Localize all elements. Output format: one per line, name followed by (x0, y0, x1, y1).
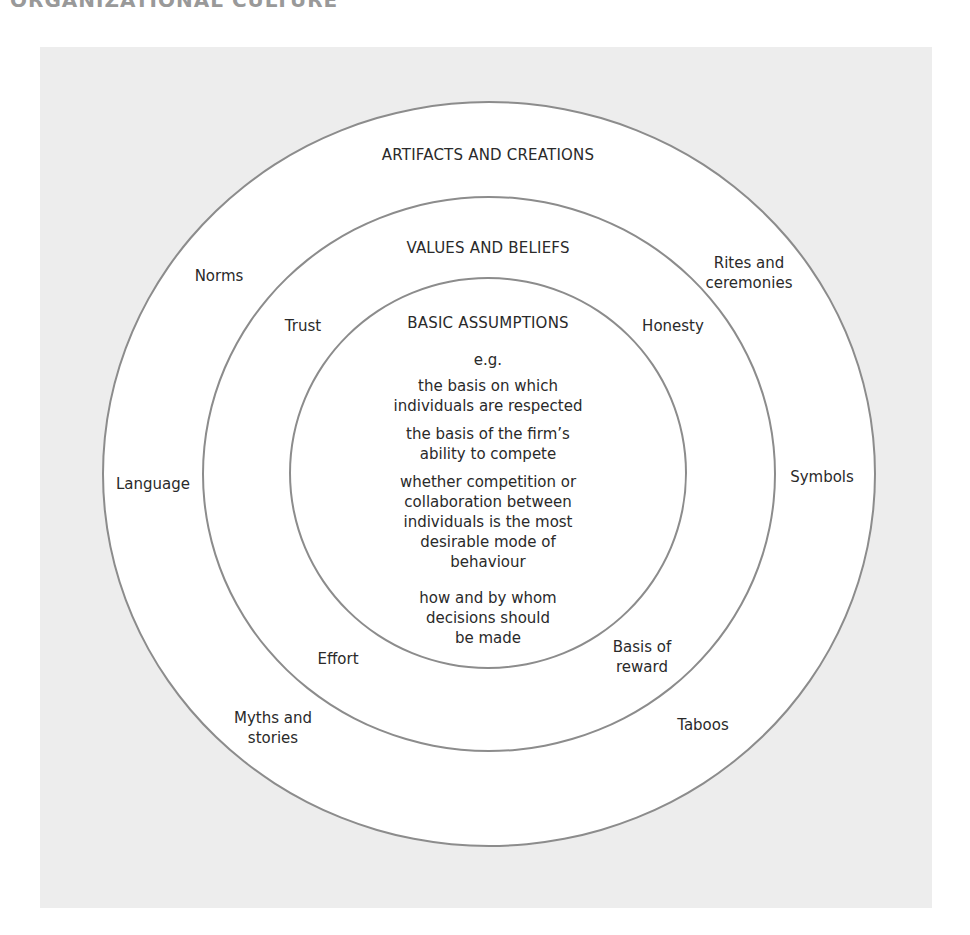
text-line: ability to compete (406, 444, 570, 464)
label-effort: Effort (317, 649, 358, 669)
label-symbols: Symbols (790, 467, 854, 487)
assumption-compete: the basis of the firm’s ability to compe… (406, 424, 570, 464)
label-line: stories (234, 728, 312, 748)
text-line: be made (419, 628, 556, 648)
label-honesty: Honesty (642, 316, 704, 336)
label-line: Basis of (613, 637, 672, 657)
label-line: Myths and (234, 708, 312, 728)
label-trust: Trust (285, 316, 321, 336)
text-line: desirable mode of (400, 532, 576, 552)
page-header-cut-off: ORGANIZATIONAL CULTURE (10, 0, 338, 12)
text-line: whether competition or (400, 472, 576, 492)
text-line: behaviour (400, 552, 576, 572)
text-line: individuals is the most (400, 512, 576, 532)
label-language: Language (116, 474, 190, 494)
middle-ring-title: VALUES AND BELIEFS (406, 238, 569, 258)
text-line: the basis on which (394, 376, 583, 396)
label-basis-of-reward: Basis of reward (613, 637, 672, 677)
outer-ring-title: ARTIFACTS AND CREATIONS (382, 145, 594, 165)
text-line: the basis of the firm’s (406, 424, 570, 444)
text-line: decisions should (419, 608, 556, 628)
label-line: Rites and (705, 253, 792, 273)
label-taboos: Taboos (677, 715, 729, 735)
label-rites-and-ceremonies: Rites and ceremonies (705, 253, 792, 293)
text-line: how and by whom (419, 588, 556, 608)
assumption-respect: the basis on which individuals are respe… (394, 376, 583, 416)
inner-ring-title: BASIC ASSUMPTIONS (407, 313, 569, 333)
label-norms: Norms (195, 266, 244, 286)
label-line: ceremonies (705, 273, 792, 293)
label-line: reward (613, 657, 672, 677)
label-myths-and-stories: Myths and stories (234, 708, 312, 748)
assumption-decisions: how and by whom decisions should be made (419, 588, 556, 648)
label-eg: e.g. (474, 350, 502, 370)
text-line: collaboration between (400, 492, 576, 512)
text-line: individuals are respected (394, 396, 583, 416)
assumption-competition-collaboration: whether competition or collaboration bet… (400, 472, 576, 572)
